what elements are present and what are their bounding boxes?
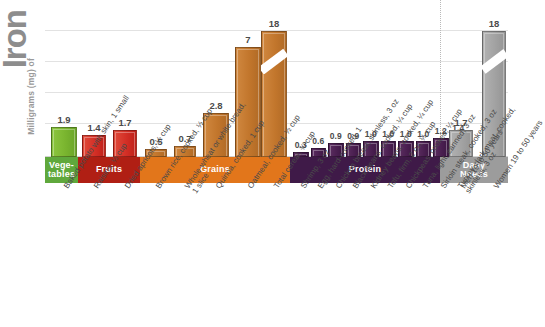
x-axis-tick-labels: Baked potato with skin, 1 smallRaisins, … xyxy=(45,185,508,327)
y-axis-title-units: Milligrams (mg) of xyxy=(26,58,36,135)
bar-value-label: 2.8 xyxy=(197,100,235,111)
bar-value-label: 18 xyxy=(255,18,293,29)
bar-vegetables xyxy=(51,127,77,157)
bar-inner-highlight xyxy=(53,129,75,156)
y-axis-title-group: Iron Milligrams (mg) of xyxy=(0,0,44,175)
bar-value-label: 18 xyxy=(476,18,512,29)
